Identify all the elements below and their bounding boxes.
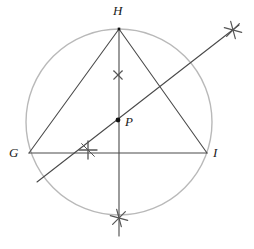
vertex-label-G: G [9,146,18,159]
side-HI [119,29,207,153]
vertex-label-H: H [113,4,122,17]
side-GH [29,29,119,153]
point-label-P: P [125,115,133,128]
oblique-bisector [37,25,239,182]
vertex-label-I: I [213,146,217,159]
vertex-H-dot [118,28,121,31]
point-P-dot [116,118,121,123]
arc-mark-upper-x [114,71,122,79]
triangle-and-construction-lines [29,25,239,236]
compass-arc-marks [79,21,242,226]
geometry-figure: H G I P [0,0,254,249]
arc-mark-left-plus [79,141,97,159]
arc-mark-upper-right-star [224,21,241,38]
